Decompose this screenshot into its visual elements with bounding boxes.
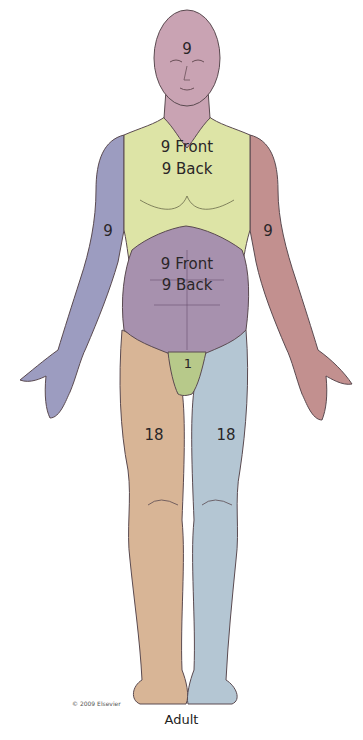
abdomen-front-label: 9 Front	[161, 255, 213, 274]
copyright-notice: © 2009 Elsevier	[72, 700, 121, 707]
right-arm-percent-label: 9	[263, 222, 273, 241]
left-leg-percent-label: 18	[144, 426, 163, 445]
body-figure	[0, 0, 363, 740]
right-leg-percent-label: 18	[216, 426, 235, 445]
left-arm-percent-label: 9	[103, 222, 113, 241]
head-percent-label: 9	[182, 40, 192, 59]
chest-back-label: 9 Back	[162, 160, 213, 179]
chest-front-label: 9 Front	[161, 138, 213, 157]
right-arm-region	[250, 135, 352, 420]
genitals-percent-label: 1	[184, 356, 192, 372]
abdomen-back-label: 9 Back	[162, 276, 213, 295]
left-arm-region	[20, 135, 124, 418]
figure-caption: Adult	[0, 712, 363, 727]
